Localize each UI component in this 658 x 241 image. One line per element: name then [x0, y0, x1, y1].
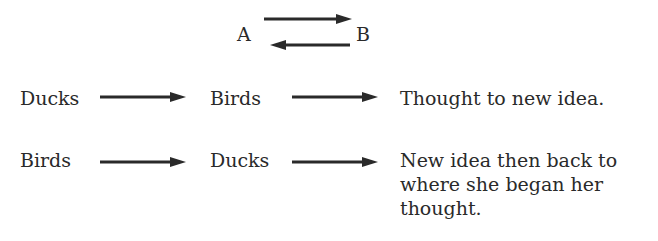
- arrow-right-icon: [292, 156, 380, 168]
- row1-result: Thought to new idea.: [400, 86, 604, 110]
- arrow-right-icon: [100, 91, 188, 103]
- row2-result: New idea then back to where she began he…: [400, 148, 650, 220]
- row2-from: Birds: [20, 148, 71, 172]
- node-b: B: [356, 22, 370, 46]
- arrow-right-icon: [292, 91, 380, 103]
- arrow-right-icon: [262, 13, 354, 25]
- row1-to: Birds: [210, 86, 261, 110]
- arrow-right-icon: [100, 156, 188, 168]
- row2-to: Ducks: [210, 148, 269, 172]
- node-a: A: [237, 22, 251, 46]
- arrow-left-icon: [270, 39, 352, 51]
- row1-from: Ducks: [20, 86, 79, 110]
